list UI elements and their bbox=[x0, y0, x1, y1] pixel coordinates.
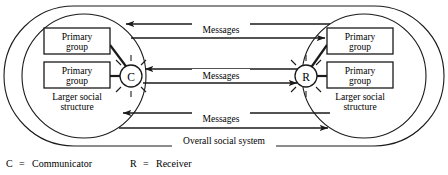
left-structure-line2: structure bbox=[60, 102, 93, 112]
message-channel-top: Messages bbox=[126, 23, 330, 38]
legend-meaning-r: Receiver bbox=[156, 158, 192, 169]
right-group-top-line2: group bbox=[349, 42, 371, 52]
left-group-top-line1: Primary bbox=[62, 32, 93, 42]
left-group-bottom-line1: Primary bbox=[62, 66, 93, 76]
overall-label-text: Overall social system bbox=[183, 136, 265, 146]
left-group-top-line2: group bbox=[66, 42, 88, 52]
communicator-node: C bbox=[116, 55, 146, 97]
right-structure-line2: structure bbox=[343, 102, 376, 112]
left-structure-caption: Larger social structure bbox=[52, 92, 102, 112]
diagram-canvas: Messages Messages Messages Primary group… bbox=[0, 0, 448, 175]
right-group-bottom-line1: Primary bbox=[345, 66, 376, 76]
message-label-middle: Messages bbox=[203, 71, 240, 81]
right-primary-group-top: Primary group bbox=[327, 28, 393, 54]
receiver-node-label: R bbox=[302, 71, 310, 83]
legend-symbol-r: R bbox=[130, 158, 137, 169]
legend: C = Communicator R = Receiver bbox=[6, 158, 192, 169]
left-structure-line1: Larger social bbox=[52, 92, 102, 102]
legend-meaning-c: Communicator bbox=[32, 158, 93, 169]
overall-social-system-label: Overall social system bbox=[172, 134, 276, 147]
message-channel-middle: Messages bbox=[143, 69, 300, 83]
right-group-bottom-line2: group bbox=[349, 76, 371, 86]
message-label-top: Messages bbox=[203, 25, 240, 35]
communicator-node-label: C bbox=[127, 71, 135, 83]
left-primary-group-bottom: Primary group bbox=[44, 62, 110, 88]
right-structure-line1: Larger social bbox=[335, 92, 385, 102]
message-label-bottom: Messages bbox=[203, 114, 240, 124]
communication-model-figure: Messages Messages Messages Primary group… bbox=[0, 0, 448, 175]
right-primary-group-bottom: Primary group bbox=[327, 62, 393, 88]
right-group-top-line1: Primary bbox=[345, 32, 376, 42]
left-primary-group-top: Primary group bbox=[44, 28, 110, 54]
right-structure-caption: Larger social structure bbox=[335, 92, 385, 112]
legend-symbol-c: C bbox=[6, 158, 13, 169]
left-group-bottom-line2: group bbox=[66, 76, 88, 86]
legend-equals-c: = bbox=[19, 158, 25, 169]
message-channel-bottom: Messages bbox=[119, 112, 330, 128]
legend-equals-r: = bbox=[143, 158, 149, 169]
